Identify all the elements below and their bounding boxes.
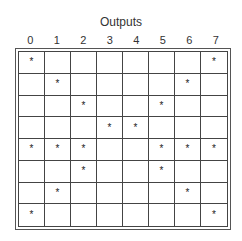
- column-labels: 01234567: [17, 34, 229, 46]
- grid-cell: [149, 52, 175, 74]
- column-label: 3: [97, 34, 123, 46]
- grid-cell: [71, 204, 97, 226]
- grid-cell: [45, 204, 71, 226]
- star-marker-icon: *: [108, 123, 112, 133]
- column-label: 7: [203, 34, 229, 46]
- grid-cell: *: [19, 52, 45, 74]
- grid-cell: [201, 117, 227, 139]
- grid-cell: [97, 139, 123, 161]
- grid-cell: [19, 74, 45, 96]
- star-marker-icon: *: [160, 144, 164, 154]
- grid-cell: *: [71, 139, 97, 161]
- star-marker-icon: *: [82, 101, 86, 111]
- grid-cell: *: [19, 139, 45, 161]
- grid-cell: [97, 204, 123, 226]
- grid-cell: [175, 117, 201, 139]
- grid-cell: [19, 183, 45, 205]
- column-label: 4: [123, 34, 149, 46]
- column-label: 1: [44, 34, 70, 46]
- star-marker-icon: *: [56, 188, 60, 198]
- star-marker-icon: *: [186, 79, 190, 89]
- grid-cell: *: [97, 117, 123, 139]
- grid-cell: [123, 161, 149, 183]
- grid-cell: [123, 183, 149, 205]
- grid-cell: [201, 96, 227, 118]
- star-marker-icon: *: [160, 101, 164, 111]
- star-marker-icon: *: [82, 144, 86, 154]
- star-marker-icon: *: [30, 210, 34, 220]
- grid-frame: ********************: [15, 48, 231, 230]
- grid-cell: *: [45, 139, 71, 161]
- column-label: 0: [17, 34, 43, 46]
- grid-cell: [97, 161, 123, 183]
- star-marker-icon: *: [212, 57, 216, 67]
- star-marker-icon: *: [82, 166, 86, 176]
- grid-cell: [97, 52, 123, 74]
- grid-cell: *: [149, 96, 175, 118]
- output-grid: ********************: [18, 51, 228, 227]
- grid-cell: [45, 161, 71, 183]
- grid-cell: [45, 117, 71, 139]
- star-marker-icon: *: [56, 144, 60, 154]
- grid-cell: [149, 74, 175, 96]
- grid-cell: [123, 139, 149, 161]
- star-marker-icon: *: [160, 166, 164, 176]
- star-marker-icon: *: [186, 188, 190, 198]
- star-marker-icon: *: [30, 57, 34, 67]
- grid-cell: *: [201, 204, 227, 226]
- grid-cell: *: [45, 183, 71, 205]
- grid-cell: [19, 161, 45, 183]
- grid-cell: *: [149, 139, 175, 161]
- grid-cell: [149, 204, 175, 226]
- grid-cell: [175, 204, 201, 226]
- grid-cell: [149, 117, 175, 139]
- grid-cell: [19, 96, 45, 118]
- grid-cell: [19, 117, 45, 139]
- grid-cell: [201, 161, 227, 183]
- star-marker-icon: *: [186, 144, 190, 154]
- grid-cell: *: [201, 52, 227, 74]
- star-marker-icon: *: [134, 123, 138, 133]
- grid-cell: *: [175, 139, 201, 161]
- grid-cell: *: [175, 183, 201, 205]
- grid-cell: *: [71, 161, 97, 183]
- grid-cell: *: [71, 96, 97, 118]
- grid-cell: [175, 96, 201, 118]
- star-marker-icon: *: [212, 210, 216, 220]
- grid-cell: [123, 96, 149, 118]
- grid-cell: *: [19, 204, 45, 226]
- grid-cell: *: [175, 74, 201, 96]
- grid-cell: [71, 74, 97, 96]
- star-marker-icon: *: [56, 79, 60, 89]
- grid-cell: [97, 74, 123, 96]
- grid-cell: *: [149, 161, 175, 183]
- grid-cell: [45, 96, 71, 118]
- grid-cell: [71, 183, 97, 205]
- grid-cell: *: [123, 117, 149, 139]
- grid-cell: [201, 74, 227, 96]
- column-label: 6: [176, 34, 202, 46]
- grid-cell: [123, 204, 149, 226]
- grid-cell: [123, 74, 149, 96]
- grid-cell: [71, 52, 97, 74]
- grid-cell: *: [45, 74, 71, 96]
- star-marker-icon: *: [30, 144, 34, 154]
- star-marker-icon: *: [212, 144, 216, 154]
- grid-cell: *: [201, 139, 227, 161]
- grid-cell: [97, 96, 123, 118]
- grid-cell: [175, 52, 201, 74]
- diagram-title: Outputs: [0, 15, 242, 29]
- grid-cell: [45, 52, 71, 74]
- grid-cell: [175, 161, 201, 183]
- grid-cell: [149, 183, 175, 205]
- column-label: 2: [70, 34, 96, 46]
- grid-cell: [123, 52, 149, 74]
- grid-cell: [201, 183, 227, 205]
- column-label: 5: [150, 34, 176, 46]
- grid-cell: [97, 183, 123, 205]
- grid-cell: [71, 117, 97, 139]
